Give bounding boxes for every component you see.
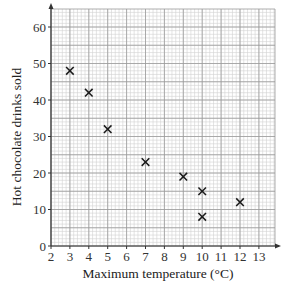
minor-grid xyxy=(51,9,275,246)
svg-text:50: 50 xyxy=(33,56,46,71)
svg-text:13: 13 xyxy=(252,249,265,264)
svg-text:4: 4 xyxy=(86,249,93,264)
scatter-chart: 2345678910111213 0102030405060 Maximum t… xyxy=(0,0,282,288)
x-tick-labels: 2345678910111213 xyxy=(48,246,266,264)
x-axis-label: Maximum temperature (°C) xyxy=(83,266,234,281)
svg-text:12: 12 xyxy=(234,249,247,264)
svg-text:30: 30 xyxy=(33,129,46,144)
svg-text:40: 40 xyxy=(33,93,46,108)
y-tick-labels: 0102030405060 xyxy=(33,20,51,254)
y-axis-label: Hot chocolate drinks sold xyxy=(9,68,24,207)
svg-text:0: 0 xyxy=(40,239,47,254)
svg-text:6: 6 xyxy=(123,249,130,264)
major-grid xyxy=(51,9,275,246)
svg-text:7: 7 xyxy=(142,249,149,264)
svg-text:2: 2 xyxy=(48,249,55,264)
svg-text:11: 11 xyxy=(215,249,228,264)
svg-text:5: 5 xyxy=(104,249,111,264)
svg-text:3: 3 xyxy=(67,249,74,264)
svg-text:9: 9 xyxy=(180,249,187,264)
svg-text:10: 10 xyxy=(33,202,46,217)
svg-text:8: 8 xyxy=(161,249,168,264)
svg-text:10: 10 xyxy=(196,249,209,264)
svg-text:60: 60 xyxy=(33,20,46,35)
svg-text:20: 20 xyxy=(33,166,46,181)
